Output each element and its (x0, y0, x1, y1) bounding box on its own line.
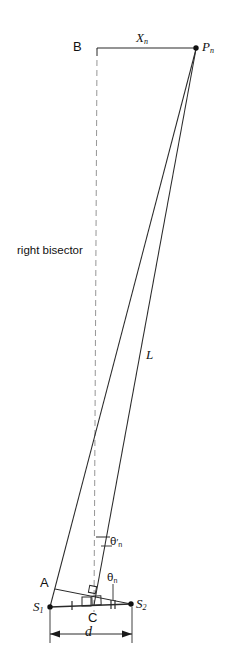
label-point-s1-base: S (33, 599, 40, 614)
label-angle-theta-n: θn (107, 572, 117, 584)
dimension-arrowhead-right (122, 631, 132, 638)
right-angle-marker-upper (88, 585, 96, 593)
right-angle-marker-baseline (82, 597, 91, 606)
point-dot-pn (193, 45, 198, 50)
label-point-pn: Pn (202, 40, 214, 53)
figure-root: B Xn Pn right bisector L θ′n θn A S1 C S… (0, 0, 225, 660)
label-point-pn-subscript: n (210, 46, 214, 55)
label-point-s2-base: S (136, 596, 143, 611)
label-segment-xn-base: X (136, 30, 144, 45)
label-point-pn-base: P (202, 39, 210, 54)
label-angle-theta-prime-subscript: n (118, 541, 122, 549)
point-dot-s1 (47, 604, 52, 609)
segment-pn-to-s1 (50, 49, 196, 607)
label-angle-theta-subscript: n (113, 577, 117, 585)
label-segment-xn: Xn (136, 31, 148, 44)
label-point-s1-subscript: 1 (40, 606, 44, 615)
label-point-s2-subscript: 2 (143, 603, 147, 612)
label-point-c: C (88, 611, 97, 624)
label-dimension-d: d (85, 625, 92, 639)
label-angle-theta-prime-n: θ′n (110, 536, 122, 548)
label-right-bisector: right bisector (17, 245, 83, 257)
label-point-b: B (73, 40, 82, 53)
dimension-arrowhead-left (50, 631, 60, 638)
geometry-diagram (0, 0, 225, 660)
label-point-a: A (40, 576, 49, 589)
label-segment-xn-subscript: n (144, 37, 148, 46)
right-bisector-dashed-line (94, 50, 97, 612)
label-point-s2: S2 (136, 597, 147, 610)
label-point-s1: S1 (33, 600, 44, 613)
label-segment-l: L (146, 348, 153, 361)
point-dot-s2 (128, 601, 133, 606)
segment-pn-to-c (94, 49, 196, 605)
